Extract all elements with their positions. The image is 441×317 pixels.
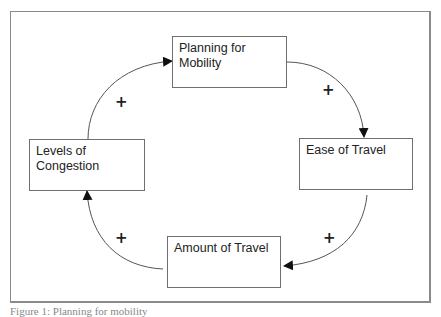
node-label: Ease of Travel [306,143,412,158]
node-label: Planning for Mobility [179,41,286,71]
polarity-planning-to-ease: + [322,83,335,98]
polarity-amount-to-congestion: + [115,231,128,246]
node-label: Levels of Congestion [36,144,144,174]
polarity-congestion-to-planning: + [115,95,128,110]
node-levels-of-congestion: Levels of Congestion [29,139,145,191]
node-label: Amount of Travel [174,241,280,256]
node-ease-of-travel: Ease of Travel [299,138,413,190]
node-planning-for-mobility: Planning for Mobility [172,36,287,88]
figure-caption: Figure 1: Planning for mobility [10,305,148,317]
arrow-planning-to-ease [287,62,364,137]
node-amount-of-travel: Amount of Travel [167,236,281,288]
polarity-ease-to-amount: + [323,231,336,246]
arrow-congestion-to-planning [88,61,172,139]
